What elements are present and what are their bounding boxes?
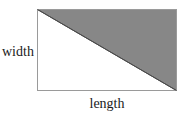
width-label: width xyxy=(2,45,36,59)
rectangle-diagram-figure: width length xyxy=(0,0,187,116)
length-label: length xyxy=(37,97,177,111)
